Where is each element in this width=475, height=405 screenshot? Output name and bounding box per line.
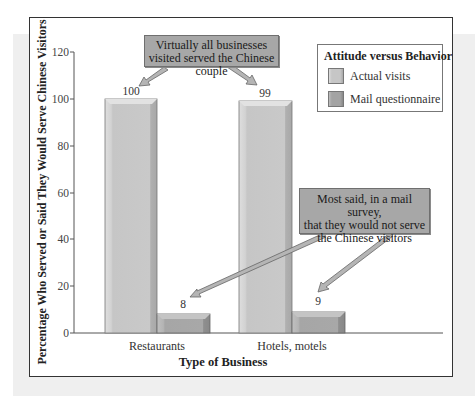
y-axis: 120 100 80 60 40 20 0: [52, 46, 74, 339]
y-tick-80: 80: [58, 140, 70, 152]
callout-bottom-line3: the Chinese visitors: [300, 232, 429, 245]
y-axis-title: Percentage Who Served or Said They Would…: [35, 19, 49, 365]
y-tick-0: 0: [63, 327, 69, 339]
legend-label-mail-questionnaire: Mail questionnaire: [350, 92, 440, 107]
callout-top-line2: visited served the Chinese couple: [145, 52, 278, 78]
legend-title: Attitude versus Behavior: [324, 49, 452, 64]
legend-item-mail-questionnaire: Mail questionnaire: [328, 90, 440, 108]
bar-hotels-mail: [292, 312, 345, 333]
value-label-hotels-actual: 99: [259, 87, 271, 99]
legend-swatch-actual-visits: [328, 68, 344, 84]
value-label-restaurants-mail: 8: [180, 298, 186, 310]
legend-label-actual-visits: Actual visits: [350, 69, 410, 84]
y-tick-100: 100: [52, 93, 70, 105]
legend: Attitude versus Behavior Actual visits M…: [317, 44, 443, 112]
y-tick-120: 120: [52, 46, 70, 58]
callout-bottom-line1: Most said, in a mail survey,: [300, 193, 429, 219]
callout-bottom: Most said, in a mail survey, that they w…: [299, 188, 430, 234]
callout-top: Virtually all businesses visited served …: [144, 35, 279, 67]
x-category-restaurants: Restaurants: [129, 339, 185, 353]
x-category-hotels: Hotels, motels: [257, 339, 327, 353]
value-label-hotels-mail: 9: [315, 295, 321, 307]
value-label-restaurants-actual: 100: [122, 85, 140, 97]
bar-restaurants-actual: [105, 99, 157, 333]
legend-item-actual-visits: Actual visits: [328, 67, 410, 85]
legend-swatch-mail-questionnaire: [328, 91, 344, 107]
y-tick-60: 60: [58, 187, 70, 199]
bar-restaurants-mail: [157, 314, 210, 333]
y-tick-20: 20: [58, 280, 70, 292]
x-axis-title: Type of Business: [179, 355, 268, 369]
y-tick-40: 40: [58, 233, 70, 245]
bar-hotels-actual: [239, 101, 292, 333]
